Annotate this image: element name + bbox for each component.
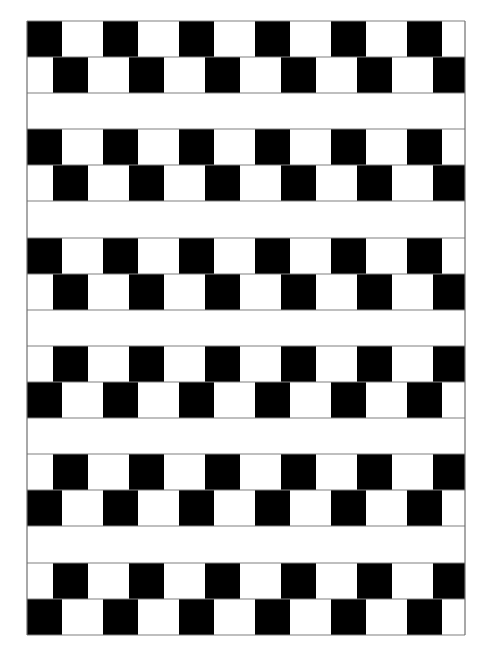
black-tile — [331, 490, 366, 526]
black-tile — [255, 599, 290, 635]
black-tile — [357, 563, 392, 599]
black-tile — [433, 454, 465, 490]
black-tile — [103, 238, 138, 274]
black-tile — [433, 165, 465, 201]
black-tile — [357, 346, 392, 382]
black-tile — [331, 382, 366, 418]
black-tile — [129, 165, 164, 201]
black-tile — [357, 454, 392, 490]
black-tile — [255, 238, 290, 274]
black-tile — [281, 454, 316, 490]
black-tile — [27, 490, 62, 526]
black-tile — [433, 563, 465, 599]
black-tile — [433, 57, 465, 93]
black-tile — [205, 57, 240, 93]
black-tile — [179, 382, 214, 418]
black-tile — [129, 274, 164, 310]
black-tile — [53, 454, 88, 490]
black-tile — [357, 165, 392, 201]
black-tile — [205, 563, 240, 599]
black-tile — [129, 57, 164, 93]
black-tile — [331, 21, 366, 57]
black-tile — [433, 346, 465, 382]
black-tile — [129, 563, 164, 599]
black-tile — [407, 129, 442, 165]
black-tile — [205, 165, 240, 201]
tile-layer — [27, 21, 465, 635]
black-tile — [179, 129, 214, 165]
black-tile — [281, 165, 316, 201]
black-tile — [281, 346, 316, 382]
frame-border — [27, 21, 465, 635]
black-tile — [255, 129, 290, 165]
black-tile — [281, 563, 316, 599]
black-tile — [281, 57, 316, 93]
black-tile — [331, 129, 366, 165]
black-tile — [205, 346, 240, 382]
black-tile — [103, 490, 138, 526]
black-tile — [53, 563, 88, 599]
black-tile — [27, 599, 62, 635]
black-tile — [103, 382, 138, 418]
black-tile — [27, 129, 62, 165]
black-tile — [255, 382, 290, 418]
black-tile — [27, 382, 62, 418]
black-tile — [331, 599, 366, 635]
black-tile — [53, 165, 88, 201]
black-tile — [433, 274, 465, 310]
black-tile — [53, 346, 88, 382]
black-tile — [357, 274, 392, 310]
black-tile — [331, 238, 366, 274]
black-tile — [281, 274, 316, 310]
black-tile — [205, 274, 240, 310]
black-tile — [27, 238, 62, 274]
black-tile — [407, 599, 442, 635]
black-tile — [103, 21, 138, 57]
black-tile — [407, 382, 442, 418]
black-tile — [179, 238, 214, 274]
black-tile — [407, 238, 442, 274]
black-tile — [53, 274, 88, 310]
black-tile — [255, 490, 290, 526]
black-tile — [129, 454, 164, 490]
black-tile — [179, 599, 214, 635]
black-tile — [407, 21, 442, 57]
black-tile — [179, 21, 214, 57]
black-tile — [407, 490, 442, 526]
cafe-wall-pattern — [0, 0, 487, 656]
black-tile — [53, 57, 88, 93]
mortar-lines — [27, 21, 465, 635]
black-tile — [103, 129, 138, 165]
black-tile — [129, 346, 164, 382]
black-tile — [357, 57, 392, 93]
black-tile — [179, 490, 214, 526]
black-tile — [205, 454, 240, 490]
black-tile — [103, 599, 138, 635]
black-tile — [255, 21, 290, 57]
black-tile — [27, 21, 62, 57]
